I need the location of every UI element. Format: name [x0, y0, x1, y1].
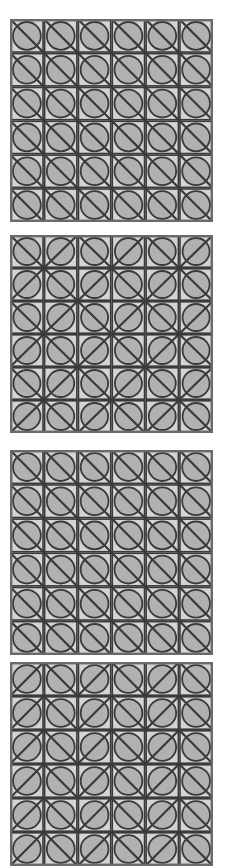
grid-cell [10, 367, 44, 400]
grid-cell [78, 268, 112, 301]
grid-cell [78, 121, 112, 155]
grid-cell [78, 662, 112, 696]
grid-cell [10, 484, 44, 518]
grid-cell [10, 662, 44, 696]
grid-cell [145, 268, 179, 301]
grid-cell [44, 87, 78, 121]
grid-cell [44, 53, 78, 87]
grid-cell [112, 19, 146, 53]
grid-cell [145, 87, 179, 121]
grid-cell [78, 696, 112, 730]
grid-cell [145, 334, 179, 367]
grid-cell [145, 553, 179, 587]
grid-cell [44, 154, 78, 188]
grid-cell [145, 53, 179, 87]
grid-cell [10, 121, 44, 155]
grid-cell [179, 484, 213, 518]
grid-cell [179, 19, 213, 53]
grid-cell [10, 764, 44, 798]
grid-cell [112, 400, 146, 433]
grid-cell [179, 188, 213, 222]
grid-cell [10, 696, 44, 730]
grid-cell [10, 188, 44, 222]
grid-cell [10, 53, 44, 87]
grid-cell [112, 764, 146, 798]
grid-cell [112, 450, 146, 484]
grid-cell [44, 450, 78, 484]
grid-cell [179, 696, 213, 730]
grid-cell [112, 154, 146, 188]
grid-cell [10, 334, 44, 367]
grid-cell [44, 484, 78, 518]
grid-cell [179, 367, 213, 400]
grid-cell [179, 621, 213, 655]
grid-cell [112, 587, 146, 621]
grid-cell [179, 268, 213, 301]
grid-cell [78, 518, 112, 552]
grid-cell [10, 587, 44, 621]
grid-cell [78, 367, 112, 400]
grid-cell [145, 832, 179, 866]
grid-cell [10, 798, 44, 832]
grid-cell [78, 450, 112, 484]
grid-cell [179, 334, 213, 367]
grid-cell [145, 484, 179, 518]
grid-cell [44, 662, 78, 696]
grid-cell [78, 188, 112, 222]
grid-cell [78, 730, 112, 764]
grid-cell [145, 587, 179, 621]
grid-cell [78, 53, 112, 87]
grid-cell [179, 87, 213, 121]
grid-cell [10, 730, 44, 764]
grid-cell [78, 587, 112, 621]
grid-cell [179, 121, 213, 155]
grid-cell [145, 518, 179, 552]
grid-cell [78, 832, 112, 866]
grid-cell [44, 832, 78, 866]
grid-cell [44, 301, 78, 334]
grid-cell [145, 764, 179, 798]
grid-cell [179, 764, 213, 798]
grid-cell [78, 19, 112, 53]
grid-cell [78, 553, 112, 587]
grid-cell [78, 484, 112, 518]
grid-cell [44, 235, 78, 268]
grid-cell [145, 696, 179, 730]
grid-cell [78, 154, 112, 188]
grid-cell [44, 188, 78, 222]
grid-cell [145, 730, 179, 764]
grid-cell [112, 53, 146, 87]
grid-cell [10, 518, 44, 552]
grid-cell [179, 798, 213, 832]
grid-cell [112, 188, 146, 222]
grid-cell [145, 367, 179, 400]
grid-cell [10, 19, 44, 53]
grid-cell [179, 518, 213, 552]
grid-cell [10, 301, 44, 334]
grid-cell [145, 121, 179, 155]
panel-canvas [10, 662, 213, 866]
grid-cell [112, 621, 146, 655]
grid-cell [44, 696, 78, 730]
grid-cell [179, 832, 213, 866]
grid-cell [179, 450, 213, 484]
grid-cell [112, 518, 146, 552]
grid-cell [179, 53, 213, 87]
grid-cell [10, 400, 44, 433]
grid-cell [44, 587, 78, 621]
grid-cell [78, 87, 112, 121]
grid-cell [112, 268, 146, 301]
grid-cell [10, 450, 44, 484]
grid-cell [78, 798, 112, 832]
grid-cell [112, 832, 146, 866]
pattern-panel-4 [10, 662, 213, 866]
grid-cell [44, 621, 78, 655]
grid-cell [179, 400, 213, 433]
grid-cell [10, 832, 44, 866]
grid-cell [10, 268, 44, 301]
panel-canvas [10, 450, 213, 655]
grid-cell [44, 400, 78, 433]
panel-canvas [10, 19, 213, 222]
grid-cell [78, 334, 112, 367]
grid-cell [145, 154, 179, 188]
